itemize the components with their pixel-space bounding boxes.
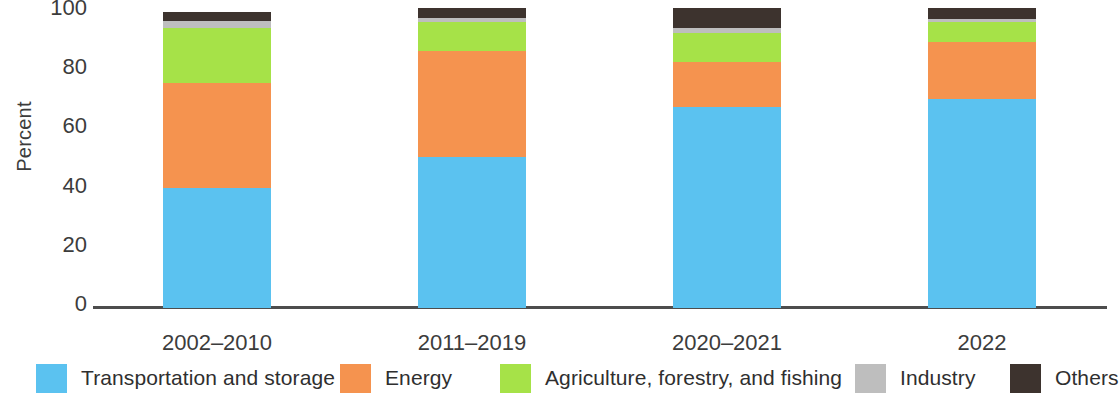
legend-label: Others [1055,366,1119,390]
legend-label: Transportation and storage [81,366,335,390]
bar-group [418,12,526,308]
bar-segment[interactable] [418,51,526,158]
bar-segment[interactable] [163,188,271,308]
bar-segment[interactable] [163,12,271,21]
legend-item[interactable]: Industry [855,360,976,396]
bar-segment[interactable] [928,42,1036,100]
bar-group [163,12,271,308]
legend-swatch-icon [340,364,371,393]
bar-segment[interactable] [418,22,526,50]
bar-segment[interactable] [418,8,526,18]
legend-item[interactable]: Energy [340,360,452,396]
legend-label: Energy [385,366,452,390]
legend-item[interactable]: Others [1010,360,1119,396]
bar-segment[interactable] [673,33,781,63]
legend-label: Agriculture, forestry, and fishing [545,366,842,390]
y-tick-label: 0 [27,293,87,315]
bar-stack[interactable] [928,8,1036,308]
bar-segment[interactable] [928,22,1036,41]
legend-swatch-icon [855,364,886,393]
y-tick-label: 60 [27,115,87,137]
legend-item[interactable]: Agriculture, forestry, and fishing [500,360,842,396]
bar-group [673,12,781,308]
y-tick-label: 100 [27,0,87,19]
bar-segment[interactable] [163,21,271,28]
legend-swatch-icon [500,364,531,393]
legend-label: Industry [900,366,976,390]
x-tick-label: 2002–2010 [97,330,337,356]
x-tick-label: 2011–2019 [352,330,592,356]
y-axis-ticks: 020406080100 [27,0,87,396]
legend-swatch-icon [1010,364,1041,393]
legend-swatch-icon [36,364,67,393]
bar-segment[interactable] [673,107,781,308]
bar-stack[interactable] [418,8,526,308]
y-tick-label: 20 [27,234,87,256]
bar-segment[interactable] [163,28,271,83]
y-tick-label: 80 [27,56,87,78]
x-tick-label: 2020–2021 [607,330,847,356]
bar-segment[interactable] [928,8,1036,20]
bar-stack[interactable] [673,8,781,308]
bar-segment[interactable] [163,83,271,188]
y-tick-label: 40 [27,175,87,197]
x-tick-label: 2022 [862,330,1102,356]
plot-area: 2002–20102011–20192020–20212022 [103,12,1103,308]
bar-segment[interactable] [673,62,781,106]
bar-group [928,12,1036,308]
bar-segment[interactable] [673,8,781,29]
chart-legend: Transportation and storageEnergyAgricult… [0,360,1113,396]
bar-segment[interactable] [418,157,526,308]
legend-item[interactable]: Transportation and storage [36,360,335,396]
bar-stack[interactable] [163,12,271,308]
bar-segment[interactable] [928,99,1036,308]
